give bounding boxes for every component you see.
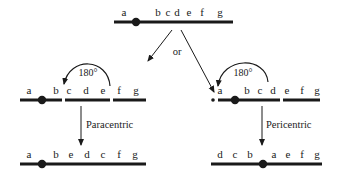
original-chromosome: a b c d e f g — [114, 6, 233, 26]
or-label: or — [173, 46, 182, 57]
gene-label: f — [300, 84, 304, 96]
pericentric-before-chromosome: a b c d e f g 180° — [211, 63, 320, 104]
gene-label: e — [285, 84, 290, 96]
gene-label: f — [117, 84, 121, 96]
gene-label: a — [27, 84, 32, 96]
gene-label: a — [27, 148, 32, 160]
branch-arrows: or — [148, 30, 214, 92]
paracentric-before-chromosome: a b c d e f g 180° — [20, 64, 146, 104]
gene-label: f — [117, 148, 121, 160]
pericentric-after-chromosome: d c b a e f g — [211, 148, 322, 168]
arrow-to-paracentric — [148, 30, 172, 61]
arrow-to-pericentric — [181, 30, 214, 92]
gene-label: b — [53, 148, 59, 160]
paracentric-arrow: Paracentric — [81, 106, 134, 145]
gene-label: g — [132, 148, 138, 160]
gene-label: a — [122, 6, 127, 18]
gene-label: e — [69, 148, 74, 160]
gene-label: d — [270, 84, 276, 96]
gene-label: b — [155, 6, 161, 18]
chromosome-inversion-diagram: a b c d e f g or a b c d e f g 180° — [0, 0, 339, 178]
gene-label: d — [174, 6, 180, 18]
rotation-label: 180° — [79, 67, 98, 78]
gene-labels: d c b a e f g — [217, 148, 320, 160]
gene-label: b — [244, 84, 250, 96]
gene-label: b — [53, 84, 59, 96]
centromere — [231, 96, 239, 104]
gene-label: g — [217, 6, 223, 18]
gene-labels: a b c d e f g — [218, 84, 321, 96]
gene-labels: a b e d c f g — [27, 148, 139, 160]
gene-labels: a b c d e f g — [122, 6, 224, 18]
gene-label: d — [84, 148, 90, 160]
gene-label: g — [314, 148, 320, 160]
gene-label: c — [258, 84, 263, 96]
gene-labels: a b c d e f g — [27, 84, 140, 96]
gene-label: c — [233, 148, 238, 160]
pericentric-label: Pericentric — [266, 119, 312, 130]
paracentric-after-chromosome: a b e d c f g — [20, 148, 146, 168]
centromere — [38, 160, 46, 168]
gene-label: b — [247, 148, 253, 160]
paracentric-label: Paracentric — [86, 119, 134, 130]
gene-label: f — [300, 148, 304, 160]
centromere — [132, 18, 140, 26]
centromere — [38, 96, 46, 104]
gene-label: d — [83, 84, 89, 96]
pericentric-arrow: Pericentric — [262, 106, 312, 145]
break-stub — [211, 98, 215, 102]
gene-label: d — [217, 148, 223, 160]
gene-label: a — [272, 148, 277, 160]
gene-label: f — [200, 6, 204, 18]
rotation-label: 180° — [234, 67, 253, 78]
gene-label: g — [314, 84, 320, 96]
gene-label: e — [101, 84, 106, 96]
gene-label: c — [67, 84, 72, 96]
gene-label: e — [187, 6, 192, 18]
gene-label: g — [133, 84, 139, 96]
centromere — [259, 160, 267, 168]
gene-label: c — [101, 148, 106, 160]
gene-label: e — [286, 148, 291, 160]
gene-label: c — [166, 6, 171, 18]
